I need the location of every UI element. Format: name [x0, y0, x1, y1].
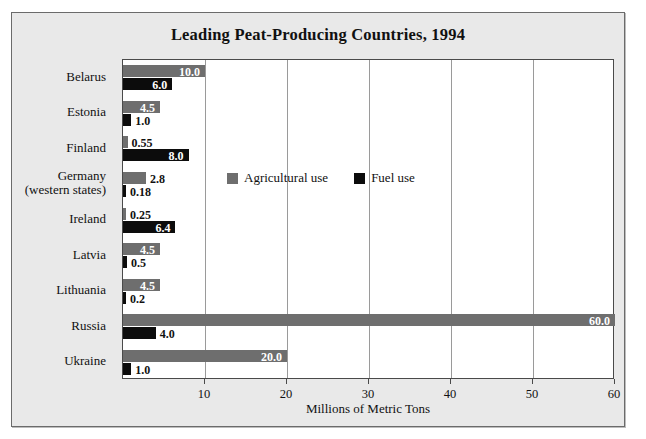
- bar-fuel: [123, 185, 126, 197]
- row-label-germany: Germany(western states): [25, 169, 106, 197]
- legend-label-fuel-use: Fuel use: [371, 170, 415, 186]
- gridline: [451, 60, 452, 378]
- gridline: [369, 60, 370, 378]
- bar-value-label: 0.55: [132, 137, 153, 149]
- gridline: [205, 60, 206, 378]
- bar-fuel: [123, 256, 127, 268]
- legend-item-fuel-use: Fuel use: [354, 170, 415, 186]
- bar-value-label: 4.5: [140, 102, 155, 114]
- legend-label-agricultural-use: Agricultural use: [244, 170, 328, 186]
- bar-value-label: 20.0: [261, 351, 282, 363]
- x-tick-label: 60: [608, 387, 621, 402]
- bar-value-label: 1.0: [135, 364, 150, 376]
- bar-value-label: 4.5: [140, 280, 155, 292]
- plot-area: 10.06.04.51.00.558.02.80.180.256.44.50.5…: [122, 59, 614, 379]
- bar-agri: [123, 172, 146, 184]
- x-tick-label: 40: [444, 387, 457, 402]
- bar-fuel: [123, 292, 126, 304]
- row-label-latvia: Latvia: [73, 248, 106, 262]
- row-label-ireland: Ireland: [69, 212, 106, 226]
- bar-value-label: 4.0: [160, 328, 175, 340]
- bar-value-label: 0.2: [130, 293, 145, 305]
- bar-value-label: 1.0: [135, 115, 150, 127]
- row-label-finland: Finland: [66, 141, 106, 155]
- bar-value-label: 0.25: [130, 209, 151, 221]
- bar-value-label: 60.0: [589, 315, 610, 327]
- x-tick-label: 30: [362, 387, 375, 402]
- row-label-line: Belarus: [66, 70, 106, 84]
- legend-item-agricultural-use: Agricultural use: [227, 170, 328, 186]
- tick-mark: [532, 379, 533, 384]
- bar-value-label: 4.5: [140, 244, 155, 256]
- bar-value-label: 0.18: [130, 186, 151, 198]
- row-label-line: Russia: [71, 319, 106, 333]
- bar-agri: [123, 136, 128, 148]
- row-label-line: Ukraine: [64, 354, 106, 368]
- row-label-line: Estonia: [67, 105, 106, 119]
- bar-value-label: 8.0: [169, 150, 184, 162]
- gridline: [287, 60, 288, 378]
- bar-value-label: 6.0: [152, 79, 167, 91]
- agricultural-use-swatch-icon: [227, 173, 238, 184]
- chart-legend: Agricultural use Fuel use: [227, 170, 415, 186]
- row-label-line: Ireland: [69, 212, 106, 226]
- tick-mark: [286, 379, 287, 384]
- row-label-line: Germany: [25, 169, 106, 183]
- bar-agri: [123, 314, 615, 326]
- bar-value-label: 2.8: [150, 173, 165, 185]
- chart-figure: Leading Peat-Producing Countries, 1994 1…: [11, 12, 625, 427]
- bar-value-label: 0.5: [131, 257, 146, 269]
- x-axis-title: Millions of Metric Tons: [122, 401, 614, 417]
- x-tick-label: 50: [526, 387, 539, 402]
- row-label-ukraine: Ukraine: [64, 354, 106, 368]
- gridline: [533, 60, 534, 378]
- bar-value-label: 6.4: [155, 222, 170, 234]
- row-label-russia: Russia: [71, 319, 106, 333]
- bar-fuel: [123, 327, 156, 339]
- bar-fuel: [123, 114, 131, 126]
- chart-title: Leading Peat-Producing Countries, 1994: [12, 25, 624, 45]
- row-label-line: Lithuania: [56, 283, 106, 297]
- tick-mark: [614, 379, 615, 384]
- tick-mark: [204, 379, 205, 384]
- row-label-line: Latvia: [73, 248, 106, 262]
- row-label-lithuania: Lithuania: [56, 283, 106, 297]
- row-label-belarus: Belarus: [66, 70, 106, 84]
- x-tick-label: 20: [280, 387, 293, 402]
- tick-mark: [450, 379, 451, 384]
- x-tick-label: 10: [198, 387, 211, 402]
- tick-mark: [368, 379, 369, 384]
- row-label-line: (western states): [25, 183, 106, 197]
- bar-value-label: 10.0: [179, 66, 200, 78]
- row-label-line: Finland: [66, 141, 106, 155]
- bar-fuel: [123, 363, 131, 375]
- bar-agri: [123, 208, 126, 220]
- row-label-estonia: Estonia: [67, 105, 106, 119]
- fuel-use-swatch-icon: [354, 173, 365, 184]
